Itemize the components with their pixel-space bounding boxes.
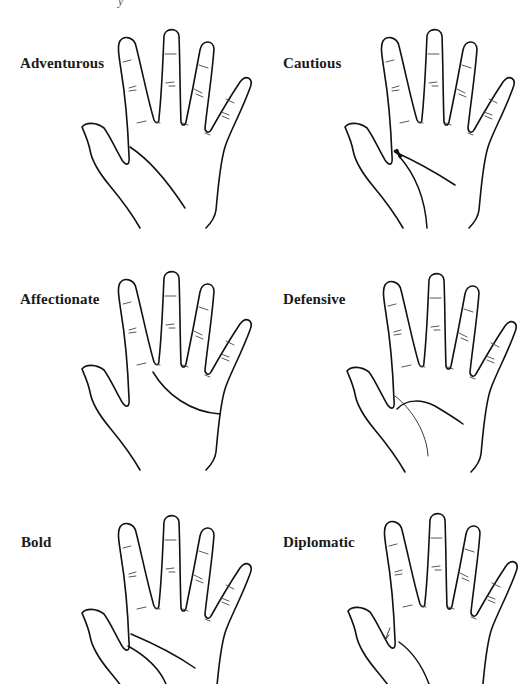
life-line — [399, 642, 429, 684]
panel-affectionate: Affectionate — [0, 228, 263, 456]
hand-illustration — [0, 0, 263, 228]
panel-defensive: Defensive — [263, 228, 526, 456]
life-line — [130, 147, 185, 208]
head-line — [397, 401, 463, 424]
hand-illustration — [263, 228, 526, 456]
panel-adventurous: Adventurous — [0, 0, 263, 228]
head-line — [395, 152, 455, 185]
hand-illustration — [0, 456, 263, 684]
hand-illustration — [263, 0, 526, 228]
panel-cautious: Cautious — [263, 0, 526, 228]
heart-line — [153, 372, 220, 414]
life-line — [395, 396, 428, 456]
head-line — [131, 634, 195, 668]
life-line — [399, 156, 427, 228]
panel-diplomatic: Diplomatic — [263, 456, 526, 684]
life-line — [128, 646, 166, 684]
hand-illustration — [263, 456, 526, 684]
hand-illustration — [0, 228, 263, 456]
panel-bold: Bold — [0, 456, 263, 684]
